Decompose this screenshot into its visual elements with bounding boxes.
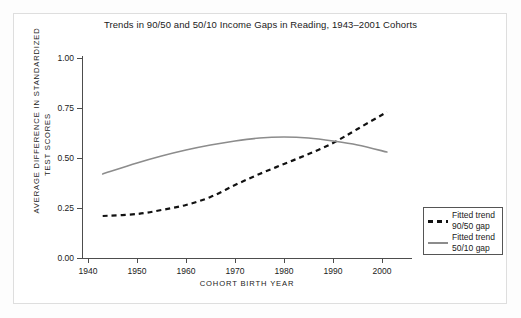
legend-item[interactable]: Fitted trend 50/10 gap bbox=[428, 233, 502, 255]
legend-swatch-solid bbox=[428, 242, 448, 244]
chart-title: Trends in 90/50 and 50/10 Income Gaps in… bbox=[0, 19, 521, 32]
x-axis-tick bbox=[382, 258, 383, 263]
x-axis-tick-label: 1980 bbox=[264, 266, 304, 276]
x-axis-tick bbox=[284, 258, 285, 263]
y-axis-label: AVERAGE DIFFERENCE IN STANDARDIZED bbox=[32, 21, 41, 221]
x-axis-tick-label: 2000 bbox=[362, 266, 402, 276]
figure-container: Trends in 90/50 and 50/10 Income Gaps in… bbox=[0, 0, 521, 318]
series-line-1 bbox=[103, 112, 387, 216]
legend-label: Fitted trend 50/10 gap bbox=[452, 232, 495, 254]
x-axis-tick bbox=[88, 258, 89, 263]
x-axis-label: COHORT BIRTH YEAR bbox=[82, 279, 412, 288]
legend-item[interactable]: Fitted trend 90/50 gap bbox=[428, 211, 502, 233]
series-line-2 bbox=[103, 137, 387, 174]
legend-swatch-dashed bbox=[428, 220, 448, 223]
y-axis-tick bbox=[77, 258, 82, 259]
x-axis-tick-label: 1960 bbox=[166, 266, 206, 276]
x-axis-tick bbox=[235, 258, 236, 263]
legend-label: Fitted trend 90/50 gap bbox=[452, 210, 495, 232]
x-axis-tick-label: 1990 bbox=[313, 266, 353, 276]
y-axis-label-line2: TEST SCORES bbox=[43, 70, 52, 220]
x-axis-tick bbox=[186, 258, 187, 263]
x-axis-line bbox=[82, 258, 412, 259]
x-axis-tick-label: 1950 bbox=[117, 266, 157, 276]
x-axis-tick-label: 1970 bbox=[215, 266, 255, 276]
y-axis-tick-label: 0.00 bbox=[34, 253, 74, 263]
plot-area bbox=[82, 58, 395, 258]
x-axis-tick bbox=[137, 258, 138, 263]
x-axis-tick-label: 1940 bbox=[68, 266, 108, 276]
x-axis-tick bbox=[333, 258, 334, 263]
chart-legend: Fitted trend 90/50 gapFitted trend 50/10… bbox=[423, 207, 503, 255]
